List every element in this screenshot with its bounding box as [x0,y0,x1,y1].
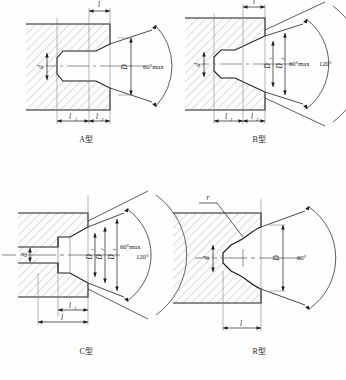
angle-arrow-bottom [305,306,310,310]
angle-label-60max: 60°max [289,60,310,67]
dim-label-d: d [194,63,202,67]
dim-label-D2-sub: 2 [100,248,105,251]
cone-lower-edge [265,92,303,104]
angle-arrow-bottom [152,103,157,107]
panel-c-drawing: d D 1 D 2 D 3 60°max 120° l 1 [0,185,173,355]
dim-label-D1: D [264,63,272,70]
outer-cone-upper [88,191,148,221]
angle-label-120: 120° [136,253,149,260]
panel-type-c: d D 1 D 2 D 3 60°max 120° l 1 [0,185,173,355]
panel-a-caption: A型 [0,133,173,144]
dim-label-D1-sub: 1 [268,58,273,61]
dim-label-D3: D [108,254,116,261]
dim-label-D3-sub: 3 [112,248,117,251]
angle-arrow-inner-bottom [303,105,308,109]
dim-label-d: d [37,65,45,69]
panel-c-caption: C型 [0,345,173,356]
dim-label-l: l [61,314,63,322]
panel-r-drawing: r d D 60° [173,185,346,355]
dim-label-top-l: l [253,0,255,6]
dim-label-D1-sub: 1 [90,249,95,252]
dim-label-l: l [240,320,242,328]
cone-upper-edge [88,213,124,227]
dim-label-D: D [121,64,129,71]
angle-arrow-top [305,206,310,210]
panel-r-caption: R型 [173,345,346,356]
outer-cone-lower [88,289,148,319]
dim-label-l1: l [69,113,71,121]
technical-drawing-sheet: l d D 60°max l 1 l 2 A型 [0,0,346,380]
angle-label-60max: 60°max [143,63,164,70]
angle-arrow-top [152,25,157,29]
panel-a-drawing: l d D 60°max l 1 l 2 [0,0,173,150]
dim-label-d: d [203,256,211,260]
angle-arc-outer [333,6,346,122]
dim-label-l1-sub: 1 [75,117,78,122]
dim-label-d: d [21,253,29,257]
angle-arrow-inner-top [303,19,308,23]
cone-upper-edge [261,211,305,227]
angle-arrow-inner-top [124,208,129,212]
dim-label-D2: D [276,63,284,70]
outer-cone-upper [265,2,325,30]
cone-lower-edge [261,289,305,305]
radius-label-r: r [207,194,210,202]
dim-label-l1-sub: 1 [230,117,233,122]
dim-label-l1: l [69,302,71,310]
dim-label-l2: l [251,113,253,121]
angle-label-120: 120° [319,60,332,67]
dim-label-D1: D [86,254,94,261]
angle-label-60max: 60°max [120,243,141,250]
dim-label-D: D [273,255,281,262]
outer-cone-lower [265,98,325,126]
cone-upper-edge [265,24,303,36]
dim-label-l2: l [96,113,98,121]
angle-label-60: 60° [297,254,307,261]
panel-type-r: r d D 60° [173,185,346,355]
panel-type-a: l d D 60°max l 1 l 2 A型 [0,0,173,150]
angle-arc [309,207,336,309]
dim-label-top-l: l [98,1,100,9]
panel-b-drawing: l d D 1 D 2 60°max 120° l 1 l [173,0,346,150]
cone-lower-edge [88,283,124,297]
dim-label-l1: l [225,113,227,121]
angle-arrow-inner-bottom [124,298,129,302]
panel-type-b: l d D 1 D 2 60°max 120° l 1 l [173,0,346,150]
dim-label-l1-sub: 1 [74,306,77,311]
dim-label-D2: D [96,254,104,261]
panel-b-caption: B型 [173,133,346,144]
dim-label-D2-sub: 2 [280,57,285,60]
